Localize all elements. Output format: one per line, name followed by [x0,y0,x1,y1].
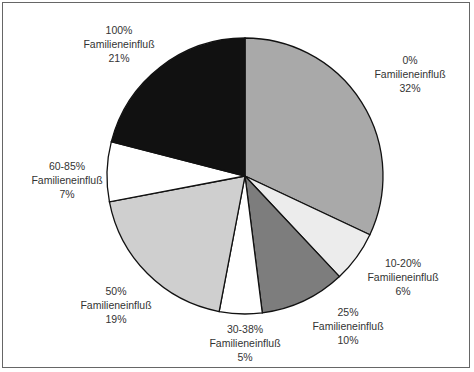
slice-label-value: 21% [83,51,154,65]
slice-label: 10-20%Familieneinfluß6% [367,256,438,298]
slice-label-category: 60-85% [31,159,102,173]
slice-label-suffix: Familieneinfluß [209,336,280,350]
slice-label-category: 50% [80,284,151,298]
slice-label-suffix: Familieneinfluß [367,270,438,284]
slice-label: 60-85%Familieneinfluß7% [31,159,102,201]
slice-label-suffix: Familieneinfluß [83,37,154,51]
slice-label: 50%Familieneinfluß19% [80,284,151,326]
slice-label: 100%Familieneinfluß21% [83,23,154,65]
slice-label-category: 25% [312,305,383,319]
slice-label-category: 100% [83,23,154,37]
slice-label-value: 10% [312,333,383,347]
slice-label: 25%Familieneinfluß10% [312,305,383,347]
slice-label: 30-38%Familieneinfluß5% [209,322,280,364]
slice-label-value: 19% [80,312,151,326]
slice-label-value: 6% [367,284,438,298]
slice-label-value: 7% [31,187,102,201]
slice-label-suffix: Familieneinfluß [80,298,151,312]
slice-label-suffix: Familieneinfluß [374,67,445,81]
slice-label-value: 5% [209,350,280,364]
slice-label-suffix: Familieneinfluß [312,319,383,333]
slice-label-category: 0% [374,53,445,67]
slice-label-category: 30-38% [209,322,280,336]
slice-label-category: 10-20% [367,256,438,270]
slice-label: 0%Familieneinfluß32% [374,53,445,95]
slice-label-suffix: Familieneinfluß [31,173,102,187]
slice-label-value: 32% [374,81,445,95]
